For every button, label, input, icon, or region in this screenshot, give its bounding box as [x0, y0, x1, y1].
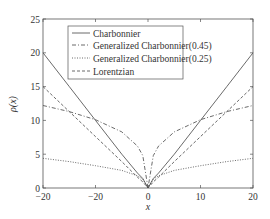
x-tick-label: 10	[196, 192, 206, 202]
legend-item-gc045: Generalized Charbonnier(0.45)	[93, 41, 212, 52]
y-tick-label: 15	[31, 82, 41, 92]
series-line-3	[43, 87, 253, 188]
chart: −20−20010200510152025 x ρ(x) Charbonnier…	[0, 0, 270, 219]
legend-item-charbonnier: Charbonnier	[93, 29, 141, 39]
legend-item-lorentzian: Lorentzian	[93, 67, 134, 77]
y-tick-label: 0	[35, 184, 40, 194]
y-axis-label: ρ(x)	[7, 95, 19, 113]
series-line-2	[43, 158, 253, 188]
y-tick-label: 10	[31, 116, 41, 126]
x-tick-label: −20	[88, 192, 103, 202]
x-axis-label: x	[145, 201, 151, 212]
legend: Charbonnier Generalized Charbonnier(0.45…	[68, 26, 212, 79]
x-tick-label: −20	[36, 192, 51, 202]
y-tick-label: 25	[31, 15, 41, 25]
y-tick-label: 20	[31, 48, 41, 58]
series-line-1	[43, 106, 253, 189]
x-tick-label: 20	[248, 192, 258, 202]
y-tick-label: 5	[35, 150, 40, 160]
legend-item-gc025: Generalized Charbonnier(0.25)	[93, 54, 212, 65]
